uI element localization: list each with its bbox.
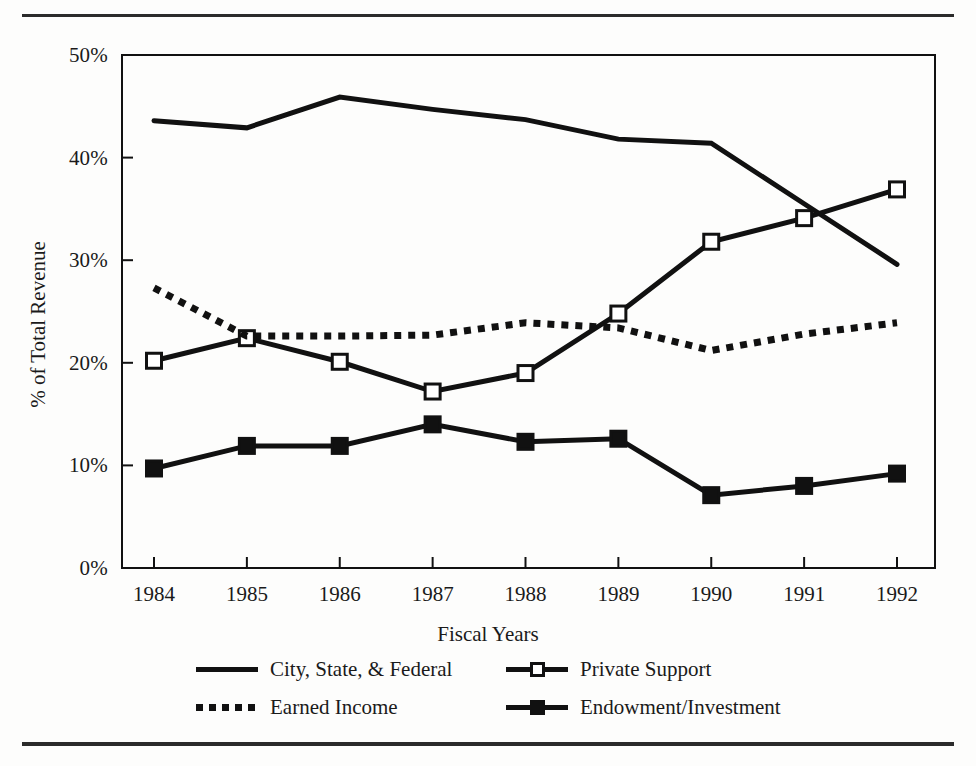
series-marker [425,384,440,399]
top-rule [22,14,954,17]
x-tick-label: 1986 [295,582,385,607]
x-tick-label: 1992 [852,582,942,607]
series-marker [518,434,533,449]
y-tick-label: 10% [52,453,108,478]
legend-item-label: Endowment/Investment [580,697,781,718]
x-axis-title: Fiscal Years [0,622,976,647]
legend-item-label: Private Support [580,659,711,680]
chart-figure: 0%10%20%30%40%50% 1984198519861987198819… [0,22,976,736]
y-tick-label: 20% [52,350,108,375]
series-marker [239,438,254,453]
y-tick-label: 0% [52,556,108,581]
legend-item[interactable]: City, State, & Federal [196,659,506,680]
series-marker [890,466,905,481]
series-marker [797,478,812,493]
series-marker [425,417,440,432]
x-tick-label: 1989 [573,582,663,607]
series-marker [797,211,812,226]
x-tick-label: 1985 [202,582,292,607]
legend-item[interactable]: Endowment/Investment [506,697,816,718]
legend-item-label: City, State, & Federal [270,659,452,680]
series-1 [154,97,897,264]
figure-page: 0%10%20%30%40%50% 1984198519861987198819… [0,0,976,766]
x-tick-label: 1990 [666,582,756,607]
bottom-rule [22,742,954,746]
series-2 [147,182,905,399]
legend-item[interactable]: Private Support [506,659,816,680]
series-marker [147,461,162,476]
y-tick-label: 50% [52,43,108,68]
legend-item[interactable]: Earned Income [196,697,506,718]
series-layer [147,97,905,503]
legend-item-label: Earned Income [270,697,398,718]
series-marker [332,438,347,453]
legend-swatch-icon [196,697,258,717]
series-line [154,189,897,391]
axis-tick-marks [122,158,897,568]
series-marker [147,353,162,368]
legend-swatch-icon [506,659,568,679]
x-tick-label: 1987 [388,582,478,607]
series-marker [518,366,533,381]
x-tick-label: 1988 [481,582,571,607]
series-marker [704,234,719,249]
series-marker [611,431,626,446]
series-marker [890,182,905,197]
y-tick-label: 30% [52,248,108,273]
y-axis-title: % of Total Revenue [26,175,51,475]
series-marker [704,488,719,503]
legend-swatch-icon [196,659,258,679]
series-4 [147,417,905,503]
x-tick-label: 1984 [109,582,199,607]
series-line [154,97,897,264]
series-marker [611,306,626,321]
chart-legend: City, State, & FederalPrivate SupportEar… [196,650,816,726]
y-tick-label: 40% [52,145,108,170]
series-marker [332,354,347,369]
legend-swatch-icon [506,697,568,717]
x-tick-label: 1991 [759,582,849,607]
